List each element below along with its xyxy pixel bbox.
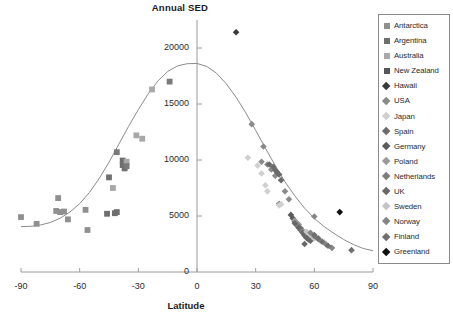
legend-item-label: Norway <box>394 214 420 229</box>
legend-item-greenland[interactable]: Greenland <box>382 244 447 259</box>
data-point <box>114 149 120 155</box>
legend-item-label: Netherlands <box>394 169 435 184</box>
data-point <box>336 209 343 216</box>
data-point <box>167 79 173 85</box>
legend-item-label: Argentina <box>394 33 426 48</box>
data-point <box>83 207 89 213</box>
series-spain <box>266 161 284 183</box>
legend-item-label: UK <box>394 184 405 199</box>
x-tick-label: -90 <box>6 281 36 291</box>
legend-item-label: Greenland <box>394 244 430 259</box>
legend-item-label: USA <box>394 93 410 108</box>
legend-square-marker-icon <box>382 51 391 60</box>
data-point <box>106 174 112 180</box>
data-point <box>149 87 155 93</box>
x-tick-label: 0 <box>182 281 212 291</box>
data-point <box>61 209 67 215</box>
data-point <box>55 195 61 201</box>
data-point <box>133 132 139 138</box>
data-point <box>18 214 24 220</box>
x-axis-label: Latitude <box>0 300 372 311</box>
x-tick-label: 30 <box>241 281 271 291</box>
legend-square-marker-icon <box>382 21 391 30</box>
x-tick-label: -60 <box>65 281 95 291</box>
data-point <box>348 247 355 254</box>
y-tick-label: 5000 <box>149 210 189 220</box>
data-point <box>114 209 120 215</box>
data-point <box>286 196 293 203</box>
data-point <box>85 227 91 233</box>
legend-item-antarctica[interactable]: Antarctica <box>382 18 447 33</box>
data-point <box>278 177 285 184</box>
legend-item-label: Poland <box>394 154 418 169</box>
data-point <box>65 216 71 222</box>
y-tick-label: 0 <box>149 266 189 276</box>
legend-item-argentina[interactable]: Argentina <box>382 33 447 48</box>
data-point <box>124 163 130 169</box>
legend-item-australia[interactable]: Australia <box>382 48 447 63</box>
data-point <box>301 241 308 248</box>
legend-diamond-marker-icon <box>382 127 391 136</box>
legend-item-poland[interactable]: Poland <box>382 154 447 169</box>
legend-item-label: New Zealand <box>394 63 439 78</box>
data-point <box>233 29 240 36</box>
data-point <box>34 221 40 227</box>
series-antarctica <box>18 195 90 233</box>
legend-diamond-marker-icon <box>382 112 391 121</box>
legend-item-japan[interactable]: Japan <box>382 109 447 124</box>
legend-square-marker-icon <box>382 66 391 75</box>
chart-figure: Annual SED Latitude -90-60-3003060900500… <box>0 0 453 321</box>
data-point <box>258 170 265 177</box>
y-tick-label: 10000 <box>149 154 189 164</box>
legend-diamond-marker-icon <box>382 142 391 151</box>
series-japan <box>245 154 285 208</box>
legend-item-spain[interactable]: Spain <box>382 124 447 139</box>
legend-item-finland[interactable]: Finland <box>382 229 447 244</box>
legend-diamond-marker-icon <box>382 172 391 181</box>
axes-layer <box>21 20 373 272</box>
legend-item-new-zealand[interactable]: New Zealand <box>382 63 447 78</box>
legend-item-usa[interactable]: USA <box>382 93 447 108</box>
y-tick-label: 20000 <box>149 42 189 52</box>
legend-item-label: Japan <box>394 109 415 124</box>
legend-diamond-marker-icon <box>382 217 391 226</box>
legend-item-label: Hawaii <box>394 78 417 93</box>
data-point <box>110 185 116 191</box>
data-point <box>139 136 145 142</box>
y-tick-label: 15000 <box>149 98 189 108</box>
data-point <box>264 188 271 195</box>
data-point <box>245 154 252 161</box>
legend-diamond-marker-icon <box>382 157 391 166</box>
data-point <box>262 182 269 189</box>
legend-item-sweden[interactable]: Sweden <box>382 199 447 214</box>
legend-square-marker-icon <box>382 36 391 45</box>
legend-diamond-marker-icon <box>382 247 391 256</box>
legend-diamond-marker-icon <box>382 202 391 211</box>
data-point <box>311 213 318 220</box>
legend-item-label: Finland <box>394 229 419 244</box>
legend-diamond-marker-icon <box>382 81 391 90</box>
data-point <box>104 211 110 217</box>
data-point <box>282 188 289 195</box>
x-tick-label: -30 <box>123 281 153 291</box>
legend-item-germany[interactable]: Germany <box>382 139 447 154</box>
x-tick-label: 60 <box>299 281 329 291</box>
legend-item-label: Spain <box>394 124 413 139</box>
legend-item-label: Sweden <box>394 199 422 214</box>
legend-item-label: Antarctica <box>394 18 428 33</box>
chart-legend: AntarcticaArgentinaAustraliaNew ZealandH… <box>378 14 450 264</box>
legend-item-norway[interactable]: Norway <box>382 214 447 229</box>
series-greenland <box>336 209 343 216</box>
legend-item-label: Germany <box>394 139 425 154</box>
legend-item-label: Australia <box>394 48 423 63</box>
legend-item-uk[interactable]: UK <box>382 184 447 199</box>
legend-diamond-marker-icon <box>382 232 391 241</box>
legend-diamond-marker-icon <box>382 97 391 106</box>
series-hawaii <box>233 29 240 36</box>
x-tick-label: 90 <box>358 281 388 291</box>
legend-item-netherlands[interactable]: Netherlands <box>382 169 447 184</box>
legend-item-hawaii[interactable]: Hawaii <box>382 78 447 93</box>
legend-diamond-marker-icon <box>382 187 391 196</box>
